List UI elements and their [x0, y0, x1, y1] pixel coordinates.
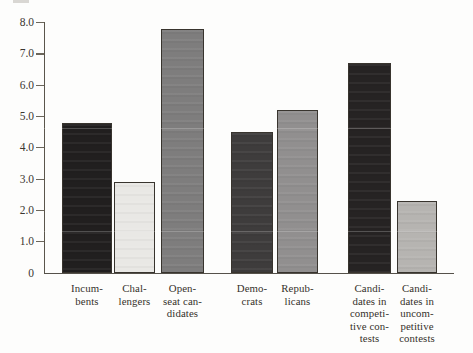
y-tick-label: 8.0 — [8, 17, 34, 28]
x-category-label-line: contests — [375, 332, 459, 345]
bar-open-seat-candidates — [161, 29, 204, 273]
y-tick-label: 0 — [8, 268, 34, 279]
scanned-book-page: 8.07.06.05.04.03.02.01.00 Incum-bentsCha… — [0, 0, 473, 353]
y-tick — [36, 53, 44, 54]
y-tick-label: 1.0 — [8, 236, 34, 247]
bar-democrats — [231, 132, 273, 273]
bar-incumbents — [62, 123, 112, 273]
y-tick-label: 2.0 — [8, 205, 34, 216]
y-tick — [36, 22, 44, 23]
y-tick-label: 7.0 — [8, 48, 34, 59]
y-tick-label: 4.0 — [8, 142, 34, 153]
bar-republicans — [277, 110, 318, 273]
y-tick-label: 5.0 — [8, 111, 34, 122]
x-category-label-line: didates — [141, 307, 225, 320]
y-tick — [36, 210, 44, 211]
x-category-label-line: dates in — [375, 295, 459, 308]
y-tick — [36, 241, 44, 242]
bar-chart: 8.07.06.05.04.03.02.01.00 Incum-bentsCha… — [0, 0, 473, 353]
bar-challengers — [114, 182, 155, 273]
x-category-label: Candi-dates inuncom-petitivecontests — [375, 282, 459, 345]
y-tick-label: 3.0 — [8, 174, 34, 185]
y-axis-line — [44, 22, 45, 273]
y-tick — [36, 116, 44, 117]
x-category-label-line: Candi- — [375, 282, 459, 295]
bar-candidates-in-uncompetitive-contests — [397, 201, 437, 273]
y-tick — [36, 179, 44, 180]
x-category-label-line: petitive — [375, 320, 459, 333]
y-tick — [36, 85, 44, 86]
y-tick — [36, 147, 44, 148]
x-category-label-line: uncom- — [375, 307, 459, 320]
bar-candidates-in-competitive-contests — [348, 63, 391, 273]
y-tick-label: 6.0 — [8, 80, 34, 91]
